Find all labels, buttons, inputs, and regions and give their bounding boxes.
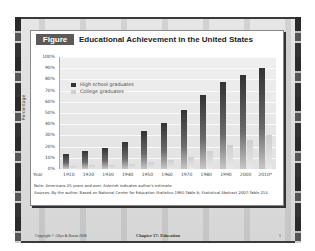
note-text: Note: Americans 25 years and over. Aster…: [34, 182, 269, 189]
bar-college: [70, 166, 76, 169]
y-tick-label: 80%: [31, 76, 55, 81]
film-strip-right: [295, 17, 301, 243]
y-tick-label: 100%: [31, 54, 55, 59]
bar-high-school: [102, 148, 108, 169]
y-tick-label: 40%: [31, 121, 55, 126]
bar-high-school: [181, 110, 187, 169]
bar-high-school: [200, 95, 206, 169]
slide-frame: Figure 17.1 Educational Achievement in t…: [15, 17, 301, 243]
x-tick-label: 1980: [198, 172, 214, 177]
slide-background: Figure 17.1 Educational Achievement in t…: [21, 19, 295, 241]
legend-swatch-college: [71, 90, 76, 94]
sources-text: Sources: By the author. Based on Nationa…: [34, 189, 269, 196]
y-tick-label: 70%: [31, 88, 55, 93]
bar-college: [109, 165, 115, 169]
figure-notes: Note: Americans 25 years and over. Aster…: [34, 182, 269, 196]
gridline: [60, 169, 276, 170]
legend-item-hs: High school graduates: [71, 81, 134, 88]
legend-item-college: College graduates: [71, 88, 134, 95]
x-tick-label: 2000: [238, 172, 254, 177]
figure-card: Figure 17.1 Educational Achievement in t…: [30, 30, 284, 206]
legend: High school graduates College graduates: [71, 81, 134, 95]
x-tick-label: 1950: [139, 172, 155, 177]
bar-college: [247, 140, 253, 169]
bar-high-school: [259, 68, 265, 169]
legend-swatch-hs: [71, 83, 76, 87]
bar-high-school: [161, 123, 167, 169]
gridline: [60, 57, 276, 58]
bar-college: [266, 135, 272, 169]
x-tick-label: 2010*: [257, 172, 273, 177]
bar-college: [227, 145, 233, 169]
legend-label-college: College graduates: [80, 89, 124, 94]
page-number: 1: [279, 234, 281, 238]
bar-college: [129, 164, 135, 169]
y-tick-label: 90%: [31, 65, 55, 70]
bar-college: [188, 157, 194, 169]
y-axis-label: Percentage: [21, 95, 26, 120]
gridline: [60, 68, 276, 69]
y-tick-label: 50%: [31, 110, 55, 115]
x-tick-label: 1970: [179, 172, 195, 177]
y-tick-label: 0%: [31, 166, 55, 171]
legend-label-hs: High school graduates: [80, 82, 134, 87]
plot-area: [59, 57, 276, 169]
figure-title: Educational Achievement in the United St…: [79, 34, 253, 45]
slide-footer: Copyright © Allyn & Bacon 2008 Chapter 1…: [27, 232, 289, 240]
bar-college: [207, 151, 213, 169]
bar-college: [148, 162, 154, 169]
y-tick-label: 30%: [31, 132, 55, 137]
chapter-title: Chapter 17: Education: [27, 233, 289, 238]
bar-high-school: [82, 151, 88, 169]
bar-high-school: [220, 82, 226, 169]
y-tick-label: 10%: [31, 155, 55, 160]
figure-badge: Figure 17.1: [36, 34, 74, 45]
x-tick-label: 1920: [80, 172, 96, 177]
bar-high-school: [141, 131, 147, 169]
x-tick-label: 1940: [120, 172, 136, 177]
x-tick-label: 1910: [61, 172, 77, 177]
bar-high-school: [122, 142, 128, 169]
x-tick-label: 1990: [218, 172, 234, 177]
bar-college: [89, 165, 95, 169]
bar-college: [168, 160, 174, 169]
bar-high-school: [63, 154, 69, 169]
x-tick-label: 1960: [159, 172, 175, 177]
y-tick-label: 20%: [31, 144, 55, 149]
x-axis-label: Year: [33, 172, 43, 177]
x-tick-label: 1930: [100, 172, 116, 177]
y-tick-label: 60%: [31, 99, 55, 104]
bar-high-school: [240, 75, 246, 169]
